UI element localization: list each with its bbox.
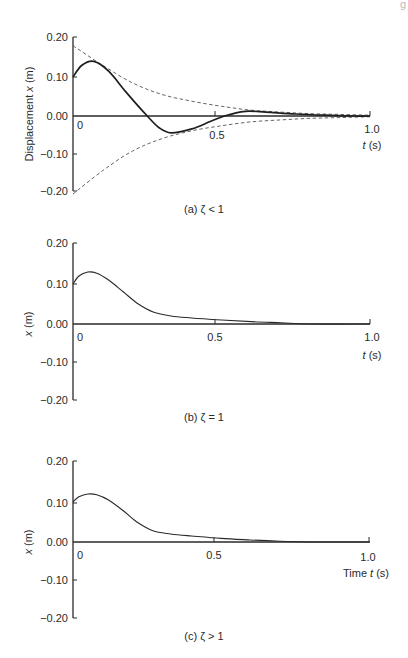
y-tick-label: −0.10 bbox=[40, 356, 68, 368]
y-tick-label: −0.20 bbox=[40, 185, 68, 197]
x-tick-label: 1.0 bbox=[364, 123, 379, 135]
y-axis-title: Displacement x (m) bbox=[23, 67, 35, 162]
panel-caption: (b) ζ = 1 bbox=[184, 411, 224, 423]
x-tick-label: 0.5 bbox=[207, 331, 222, 343]
x-axis-title: t (s) bbox=[363, 349, 382, 361]
y-axis-title: x (m) bbox=[22, 529, 34, 555]
y-tick-label: 0.00 bbox=[47, 318, 68, 330]
x-tick-label: 1.0 bbox=[360, 551, 375, 563]
panel-c: 0.20 0.10 0.00 −0.10 −0.20 0 0.5 1.0 Tim… bbox=[22, 455, 389, 642]
y-tick-label: 0.00 bbox=[47, 110, 68, 122]
y-tick-label: 0.10 bbox=[47, 497, 68, 509]
page-header-fragment: g bbox=[400, 0, 406, 10]
figure-canvas: g 0.20 0.10 0.00 −0.10 −0.20 0 0.5 1.0 t… bbox=[0, 0, 408, 658]
y-tick-label: 0.10 bbox=[47, 71, 68, 83]
critically-damped-response-line bbox=[73, 272, 370, 324]
y-tick-label: 0.20 bbox=[47, 455, 68, 467]
panel-caption: (a) ζ < 1 bbox=[184, 203, 224, 215]
x-tick-label: 0.5 bbox=[206, 549, 221, 561]
y-tick-label: −0.10 bbox=[40, 574, 68, 586]
underdamped-response-line bbox=[73, 61, 370, 133]
x-tick-label: 1.0 bbox=[364, 331, 379, 343]
x-tick-label: 0.5 bbox=[209, 129, 224, 141]
x-tick-label: 0 bbox=[77, 549, 83, 561]
y-tick-label: 0.10 bbox=[47, 278, 68, 290]
y-tick-label: 0.00 bbox=[47, 536, 68, 548]
y-tick-label: 0.20 bbox=[47, 237, 68, 249]
y-tick-label: −0.20 bbox=[40, 612, 68, 624]
y-tick-label: −0.20 bbox=[40, 394, 68, 406]
y-tick-label: −0.10 bbox=[40, 148, 68, 160]
y-axis-title: x (m) bbox=[22, 311, 34, 337]
panel-b: 0.20 0.10 0.00 −0.10 −0.20 0 0.5 1.0 t (… bbox=[22, 237, 381, 423]
x-tick-label: 0 bbox=[77, 331, 83, 343]
x-axis-title: t (s) bbox=[363, 139, 382, 151]
y-tick-label: 0.20 bbox=[47, 31, 68, 43]
x-tick-label: 0 bbox=[77, 119, 83, 131]
panel-a: 0.20 0.10 0.00 −0.10 −0.20 0 0.5 1.0 t (… bbox=[23, 31, 381, 215]
panel-caption: (c) ζ > 1 bbox=[184, 630, 223, 642]
x-axis-title: Time t (s) bbox=[343, 567, 389, 579]
overdamped-response-line bbox=[73, 494, 369, 542]
